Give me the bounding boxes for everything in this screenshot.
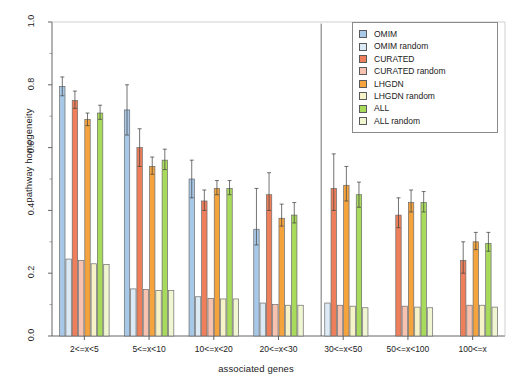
legend-swatch-icon [359,55,367,63]
bar [85,119,90,336]
bar [473,242,478,336]
bar [156,290,161,336]
bar [298,305,303,336]
legend-item[interactable]: ALL random [359,115,491,127]
bar [467,305,472,336]
bar [168,290,173,336]
legend-item[interactable]: OMIM [359,28,491,40]
legend-label: OMIM [374,30,397,39]
bar [402,306,407,336]
bar [214,188,219,336]
bar [408,203,413,336]
legend-item[interactable]: CURATED random [359,65,491,77]
bar [292,215,297,336]
bar [325,303,330,336]
bar [344,185,349,336]
bar [131,289,136,336]
bar [60,86,65,336]
y-tick-label: 0.6 [26,134,36,160]
bar [363,308,368,336]
legend-label: ALL [374,104,389,113]
legend-swatch-icon [359,30,367,38]
bar [279,218,284,336]
bar [285,305,290,336]
bar [415,307,420,336]
legend-swatch-icon [359,92,367,100]
bar [104,264,109,336]
legend-item[interactable]: ALL [359,102,491,114]
bar [427,308,432,336]
bar [273,305,278,336]
bar [91,264,96,336]
bar [124,110,129,336]
bar [137,148,142,336]
legend-swatch-icon [359,67,367,75]
bar [162,160,167,336]
bar [221,299,226,336]
bar [79,261,84,336]
bar [195,297,200,336]
bar [208,298,213,336]
legend-label: OMIM random [374,42,428,51]
bar [66,259,71,336]
bar [486,243,491,336]
legend-item[interactable]: CURATED [359,53,491,65]
legend-item[interactable]: LHGDN random [359,90,491,102]
bar [350,306,355,336]
legend-item[interactable]: OMIM random [359,40,491,52]
bar [233,299,238,336]
bar [202,201,207,336]
bar [356,195,361,336]
legend-swatch-icon [359,80,367,88]
legend-swatch-icon [359,105,367,113]
bar [227,188,232,336]
bar [492,307,497,336]
bar [260,303,265,336]
legend: OMIM OMIM random CURATED CURATED random … [352,22,498,133]
bar [189,179,194,336]
bar [337,305,342,336]
bar [143,290,148,336]
x-axis-title: associated genes [0,363,512,374]
bar [421,203,426,336]
y-tick-label: 0.2 [26,259,36,285]
bar [266,195,271,336]
y-tick-label: 0.8 [26,71,36,97]
legend-label: CURATED [374,55,414,64]
chart-figure: pathway homogeneity associated genes 0.0… [0,0,512,382]
legend-item[interactable]: LHGDN [359,78,491,90]
legend-label: LHGDN random [374,92,435,101]
bar [150,166,155,336]
x-tick-label: 100<=x [433,344,512,354]
y-tick-label: 1.0 [26,8,36,34]
y-tick-label: 0.0 [26,322,36,348]
legend-label: CURATED random [374,67,446,76]
bar [97,113,102,336]
bar [479,305,484,336]
legend-label: LHGDN [374,80,404,89]
bar [396,215,401,336]
legend-swatch-icon [359,117,367,125]
bar [72,101,77,337]
y-tick-label: 0.4 [26,196,36,222]
legend-swatch-icon [359,43,367,51]
legend-label: ALL random [374,117,420,126]
